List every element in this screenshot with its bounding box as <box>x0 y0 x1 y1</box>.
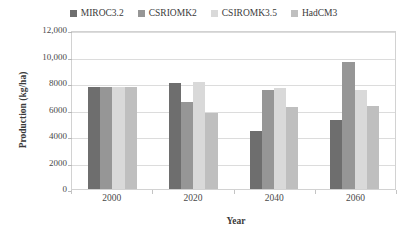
x-axis-labels: 2000202020402060 <box>71 193 396 203</box>
bar-group <box>234 32 315 189</box>
y-axis-label: 6000 <box>9 106 67 115</box>
bar <box>262 90 274 189</box>
y-axis-label: 8000 <box>9 79 67 88</box>
bar <box>100 87 112 189</box>
bar <box>355 90 367 189</box>
y-axis-label: 0 <box>9 185 67 194</box>
bar <box>274 88 286 189</box>
legend-label: CSRIOMK2 <box>149 9 197 19</box>
bar <box>181 102 193 189</box>
legend-label: MIROC3.2 <box>81 9 124 19</box>
bar <box>193 82 205 189</box>
bar-group <box>72 32 153 189</box>
bar <box>169 83 181 189</box>
x-axis-label: 2000 <box>71 193 152 203</box>
y-axis-label: 12,000 <box>9 26 67 35</box>
x-axis-title: Year <box>70 216 402 226</box>
x-axis-tickmark <box>396 190 397 194</box>
bar <box>367 106 379 189</box>
bar <box>112 87 124 189</box>
bar <box>330 120 342 189</box>
bar <box>125 87 137 189</box>
x-axis-label: 2060 <box>315 193 396 203</box>
legend-item-miroc32: MIROC3.2 <box>70 9 124 19</box>
legend-label: HadCM3 <box>302 9 337 19</box>
y-axis-label: 10,000 <box>9 53 67 62</box>
chart-legend: MIROC3.2 CSRIOMK2 CSIROMK3.5 HadCM3 <box>0 9 407 19</box>
legend-swatch-icon <box>291 10 298 17</box>
bar-groups <box>72 32 395 189</box>
bar <box>88 87 100 189</box>
y-axis-label: 4000 <box>9 132 67 141</box>
legend-swatch-icon <box>70 10 77 17</box>
legend-swatch-icon <box>138 10 145 17</box>
y-axis-label: 2000 <box>9 159 67 168</box>
bar-group <box>153 32 234 189</box>
plot-area <box>71 31 396 190</box>
bar <box>205 113 217 189</box>
bar <box>286 107 298 189</box>
bar <box>342 62 354 189</box>
x-axis-label: 2040 <box>234 193 315 203</box>
legend-item-csriomk2: CSRIOMK2 <box>138 9 197 19</box>
bar-chart: MIROC3.2 CSRIOMK2 CSIROMK3.5 HadCM3 Prod… <box>0 0 407 239</box>
bar-group <box>314 32 395 189</box>
legend-item-hadcm3: HadCM3 <box>291 9 337 19</box>
bar <box>250 131 262 189</box>
legend-swatch-icon <box>211 10 218 17</box>
x-axis-label: 2020 <box>152 193 233 203</box>
legend-label: CSIROMK3.5 <box>222 9 277 19</box>
legend-item-csiromk35: CSIROMK3.5 <box>211 9 277 19</box>
